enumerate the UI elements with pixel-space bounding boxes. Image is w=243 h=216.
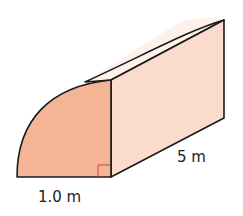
length-label: 5 m <box>177 148 206 166</box>
diagram-canvas: 1.0 m 5 m <box>0 0 243 216</box>
prism-drawing <box>0 0 243 216</box>
front-quarter-circle-face <box>17 80 111 177</box>
radius-label: 1.0 m <box>38 188 81 206</box>
